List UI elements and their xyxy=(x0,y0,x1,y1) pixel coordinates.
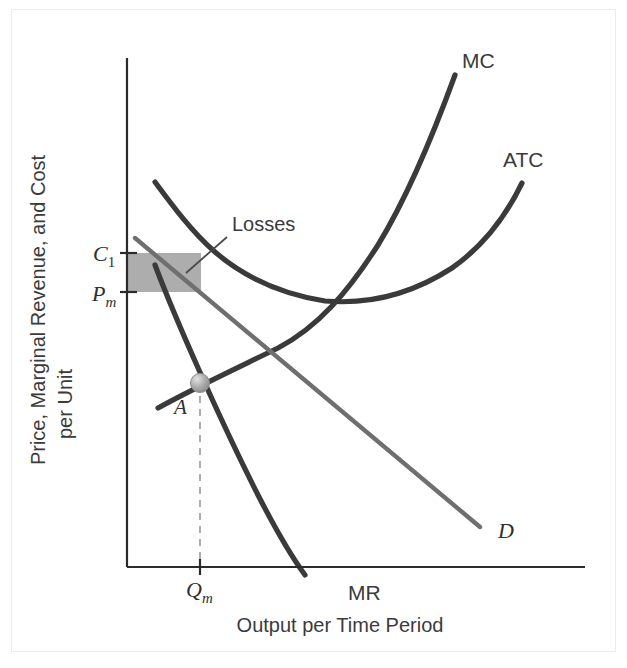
chart-canvas: Losses MC ATC MR D A C1 Pm Qm Output per… xyxy=(0,0,627,668)
atc-label: ATC xyxy=(503,148,543,171)
x-axis-label: Output per Time Period xyxy=(237,614,444,636)
point-a-marker xyxy=(191,374,210,393)
qm-tick-label: Qm xyxy=(186,577,213,606)
demand-label: D xyxy=(497,518,514,543)
mr-label: MR xyxy=(348,581,381,604)
mr-curve xyxy=(155,265,305,575)
pm-tick-label: Pm xyxy=(91,281,116,310)
c1-tick-label: C1 xyxy=(93,241,115,270)
y-axis-label-line1: Price, Marginal Revenue, and Cost xyxy=(27,154,49,465)
atc-curve xyxy=(155,182,522,302)
point-a-label: A xyxy=(172,395,187,419)
losses-label: Losses xyxy=(232,213,295,235)
economics-diagram-figure: Losses MC ATC MR D A C1 Pm Qm Output per… xyxy=(0,0,627,668)
mc-label: MC xyxy=(462,49,495,72)
y-axis-label-line2: per Unit xyxy=(54,369,76,439)
